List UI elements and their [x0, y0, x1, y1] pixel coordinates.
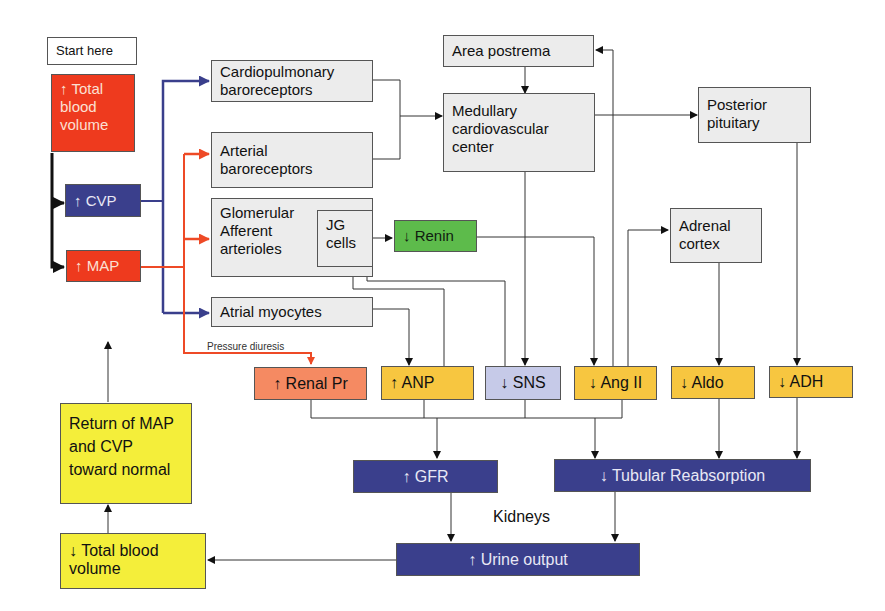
- gfr-up-node: ↑ GFR: [353, 460, 498, 493]
- aldo-down-text: ↓ Aldo: [680, 374, 724, 392]
- renal-pressure-up-node: ↑ Renal Pr: [254, 367, 367, 400]
- map-up-text: ↑ MAP: [75, 257, 119, 275]
- kidneys-label: Kidneys: [493, 508, 550, 526]
- adh-down-text: ↓ ADH: [778, 373, 823, 391]
- renal-pressure-up-text: ↑ Renal Pr: [273, 375, 348, 393]
- cvp-up-text: ↑ CVP: [74, 192, 117, 210]
- urine-output-up-node: ↑ Urine output: [396, 543, 640, 576]
- cardiopulmonary-text: Cardiopulmonary baroreceptors: [220, 63, 364, 99]
- map-up-node: ↑ MAP: [66, 250, 141, 282]
- pressure-diuresis-label: Pressure diuresis: [207, 341, 284, 352]
- diagram-canvas: Start here ↑ Total blood volume ↑ CVP ↑ …: [0, 0, 885, 611]
- arterial-text: Arterial baroreceptors: [220, 142, 330, 178]
- ang2-down-text: ↓ Ang II: [589, 374, 642, 392]
- aldo-down-node: ↓ Aldo: [671, 366, 755, 399]
- total-blood-volume-up-node: ↑ Total blood volume: [51, 74, 135, 152]
- tubular-reabsorption-down-text: ↓ Tubular Reabsorption: [600, 467, 765, 485]
- total-blood-volume-up-text: ↑ Total blood volume: [60, 80, 108, 133]
- return-toward-normal-text: Return of MAP and CVP toward normal: [69, 412, 181, 481]
- area-postrema-text: Area postrema: [452, 42, 550, 60]
- posterior-pituitary-text: Posterior pituitary: [707, 96, 787, 132]
- start-here-label: Start here: [47, 37, 137, 65]
- medullary-text: Medullary cardiovascular center: [452, 102, 562, 156]
- jg-cells-node: JG cells: [317, 210, 373, 267]
- area-postrema-node: Area postrema: [443, 35, 594, 67]
- return-toward-normal-node: Return of MAP and CVP toward normal: [60, 403, 192, 504]
- jg-cells-text: JG cells: [326, 216, 356, 252]
- cvp-up-node: ↑ CVP: [65, 184, 141, 217]
- urine-output-up-text: ↑ Urine output: [468, 551, 568, 569]
- tubular-reabsorption-down-node: ↓ Tubular Reabsorption: [554, 459, 811, 492]
- renin-down-node: ↓ Renin: [394, 220, 477, 252]
- total-blood-volume-down-text: ↓ Total blood volume: [69, 542, 194, 578]
- medullary-cardiovascular-center-node: Medullary cardiovascular center: [443, 93, 595, 172]
- total-blood-volume-down-node: ↓ Total blood volume: [60, 533, 206, 589]
- sns-down-text: ↓ SNS: [500, 374, 545, 392]
- sns-down-node: ↓ SNS: [485, 366, 561, 400]
- gfr-up-text: ↑ GFR: [402, 468, 448, 486]
- anp-up-node: ↑ ANP: [381, 366, 474, 400]
- anp-up-text: ↑ ANP: [390, 374, 434, 392]
- glomerular-text: Glomerular Afferent arterioles: [220, 204, 315, 258]
- adrenal-cortex-node: Adrenal cortex: [670, 208, 762, 263]
- atrial-myocytes-node: Atrial myocytes: [211, 297, 373, 327]
- renin-down-text: ↓ Renin: [403, 227, 454, 245]
- start-here-text: Start here: [56, 42, 113, 60]
- adrenal-cortex-text: Adrenal cortex: [679, 217, 739, 253]
- arterial-baroreceptors-node: Arterial baroreceptors: [211, 132, 373, 188]
- adh-down-node: ↓ ADH: [769, 366, 853, 398]
- cardiopulmonary-baroreceptors-node: Cardiopulmonary baroreceptors: [211, 60, 373, 102]
- atrial-myocytes-text: Atrial myocytes: [220, 303, 322, 321]
- posterior-pituitary-node: Posterior pituitary: [698, 87, 811, 143]
- ang2-down-node: ↓ Ang II: [574, 366, 657, 400]
